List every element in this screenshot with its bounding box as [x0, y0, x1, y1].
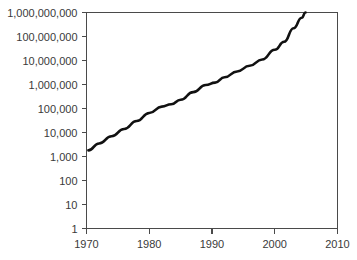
data-line-growth	[88, 13, 305, 151]
y-axis-ticks: 1101001,00010,000100,0001,000,00010,000,…	[7, 7, 86, 235]
x-tick-label: 1980	[137, 238, 161, 250]
y-tick-label: 1,000	[50, 151, 78, 163]
y-tick-label: 1,000,000,000	[7, 7, 77, 19]
data-series-group	[88, 13, 305, 151]
x-tick-label: 2000	[263, 238, 287, 250]
y-tick-label: 10	[65, 199, 77, 211]
y-tick-label: 1,000,000	[29, 79, 78, 91]
x-tick-label: 2010	[325, 238, 349, 250]
x-tick-label: 1990	[200, 238, 224, 250]
y-tick-label: 100,000	[38, 103, 78, 115]
x-tick-label: 1970	[74, 238, 98, 250]
x-axis-ticks: 19701980199020002010	[74, 229, 349, 250]
plot-border	[87, 13, 338, 229]
chart-canvas: 1101001,00010,000100,0001,000,00010,000,…	[0, 0, 357, 260]
y-tick-label: 10,000,000	[22, 55, 77, 67]
y-tick-label: 100,000,000	[16, 31, 77, 43]
plot-frame	[87, 13, 338, 229]
chart-figure: 1101001,00010,000100,0001,000,00010,000,…	[0, 0, 357, 260]
y-tick-label: 1	[71, 223, 77, 235]
y-tick-label: 100	[59, 175, 77, 187]
y-tick-label: 10,000	[44, 127, 78, 139]
